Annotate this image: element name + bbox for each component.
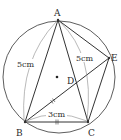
dimension-arc-ac — [60, 22, 88, 120]
label-e: E — [111, 53, 118, 63]
dimension-arc-ab — [24, 22, 56, 120]
segment-ac — [58, 20, 88, 122]
segment-ab — [25, 20, 58, 122]
segment-ec — [88, 58, 109, 122]
measurement-ac: 5cm — [76, 54, 94, 63]
point-e — [108, 57, 110, 59]
point-a — [57, 19, 59, 21]
label-a: A — [53, 8, 61, 18]
geometry-diagram: A B C D E 5cm 5cm 3cm — [0, 0, 121, 140]
label-b: B — [16, 128, 23, 138]
measurement-ab: 5cm — [17, 60, 35, 69]
point-c — [87, 121, 89, 123]
measurement-bc: 3cm — [48, 110, 66, 119]
label-c: C — [88, 128, 95, 138]
label-d: D — [67, 76, 74, 86]
center-dot — [56, 76, 59, 79]
segment-ae — [58, 20, 109, 58]
point-b — [24, 121, 26, 123]
